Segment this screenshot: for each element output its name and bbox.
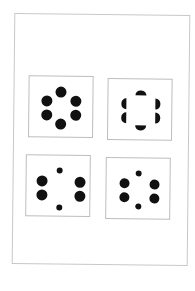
dot bbox=[41, 95, 52, 106]
large-dot bbox=[119, 192, 129, 202]
half-disc-right-upper bbox=[155, 99, 160, 110]
panel-bottom-right bbox=[105, 157, 171, 220]
large-dot bbox=[149, 180, 159, 190]
panel-top-left bbox=[28, 75, 94, 138]
dot bbox=[55, 119, 66, 130]
half-disc-bottom bbox=[135, 125, 146, 130]
half-disc-top bbox=[135, 90, 146, 95]
small-dot bbox=[56, 205, 62, 211]
panel-top-right bbox=[107, 78, 173, 141]
dot bbox=[55, 87, 66, 98]
dot bbox=[41, 109, 52, 120]
small-dot bbox=[135, 203, 141, 209]
large-dot bbox=[36, 189, 47, 200]
large-dot bbox=[149, 194, 159, 204]
panel-bottom-left bbox=[25, 154, 91, 217]
dot bbox=[70, 96, 81, 107]
half-disc-right-lower bbox=[155, 113, 160, 124]
dot bbox=[70, 110, 81, 121]
large-dot bbox=[119, 178, 129, 188]
large-dot bbox=[74, 177, 85, 188]
large-dot bbox=[74, 191, 85, 202]
large-dot bbox=[37, 175, 48, 186]
half-disc-left-lower bbox=[121, 112, 126, 123]
half-disc-left-upper bbox=[121, 98, 126, 109]
small-dot bbox=[136, 170, 142, 176]
small-dot bbox=[57, 168, 63, 174]
figure-sheet bbox=[12, 13, 191, 266]
